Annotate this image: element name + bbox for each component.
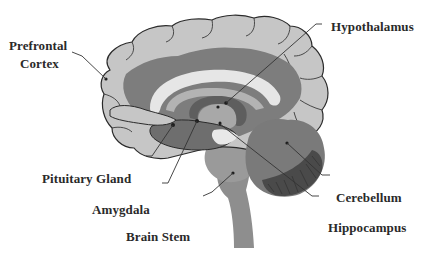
label-brain-stem: Brain Stem: [126, 229, 190, 244]
label-prefrontal-line2: Cortex: [9, 55, 67, 73]
label-cerebellum: Cerebellum: [336, 190, 402, 205]
label-pituitary-gland: Pituitary Gland: [42, 171, 131, 186]
brain-diagram: Prefrontal Cortex Hypothalamus Pituitary…: [0, 0, 439, 254]
label-hippocampus: Hippocampus: [328, 220, 406, 235]
label-prefrontal-cortex: Prefrontal Cortex: [9, 37, 67, 73]
label-prefrontal-line1: Prefrontal: [9, 37, 67, 55]
label-amygdala: Amygdala: [92, 202, 150, 217]
label-hypothalamus: Hypothalamus: [331, 19, 414, 34]
